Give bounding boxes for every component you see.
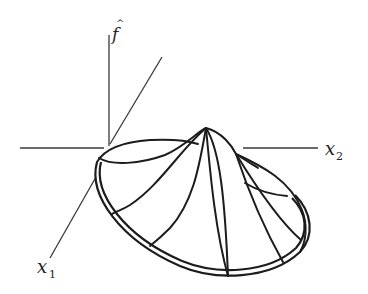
meridian-center-left bbox=[206, 128, 228, 276]
meridian-right-1 bbox=[236, 154, 283, 262]
meridian-center-right bbox=[206, 128, 228, 276]
surface-back-rim-right bbox=[206, 128, 306, 252]
back-diagonal-axis bbox=[110, 57, 162, 144]
x1-label: x bbox=[37, 256, 47, 277]
x1-subscript: 1 bbox=[49, 268, 56, 281]
meridian-right-2 bbox=[236, 154, 301, 240]
meridian-left-mid bbox=[150, 128, 206, 246]
f-hat-accent: ^ bbox=[116, 17, 124, 28]
surface-rim-inner bbox=[100, 162, 305, 270]
surface-diagram: f ^ x 2 x 1 bbox=[0, 0, 368, 294]
x2-subscript: 2 bbox=[336, 150, 343, 163]
meridian-left bbox=[112, 128, 206, 214]
x1-axis bbox=[50, 177, 96, 258]
x2-label: x bbox=[325, 138, 335, 159]
surface-front-fold-left bbox=[99, 128, 206, 163]
